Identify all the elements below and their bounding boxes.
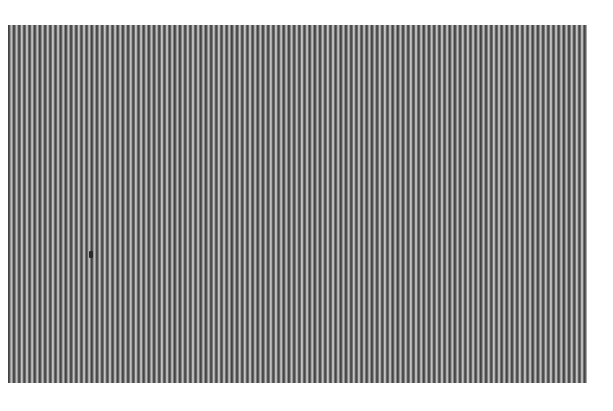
vertical-stripe-pattern [8,25,587,383]
dark-spot-marker [89,251,93,258]
